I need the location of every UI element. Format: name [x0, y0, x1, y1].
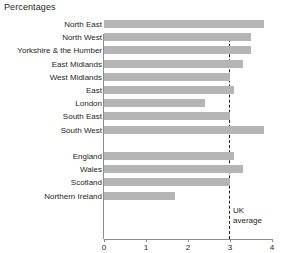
category-label: South West	[0, 125, 102, 136]
category-label: South East	[0, 111, 102, 122]
bar	[104, 152, 234, 160]
category-label: East Midlands	[0, 59, 102, 70]
x-tick-label: 2	[178, 243, 198, 253]
uk-average-label-line2: average	[233, 216, 262, 226]
x-tick	[188, 239, 189, 242]
bar	[104, 126, 264, 134]
x-tick-label: 1	[136, 243, 156, 253]
category-label: North East	[0, 19, 102, 30]
bar	[104, 46, 251, 54]
table-row: London	[0, 97, 280, 110]
bar	[104, 99, 205, 107]
table-row: East	[0, 84, 280, 97]
x-tick	[230, 239, 231, 242]
chart-title: Percentages	[4, 2, 56, 13]
group-separator-row	[0, 137, 280, 150]
category-label: Wales	[0, 164, 102, 175]
uk-average-label: UK average	[233, 206, 262, 226]
table-row: Wales	[0, 163, 280, 176]
table-row: West Midlands	[0, 71, 280, 84]
bar	[104, 112, 230, 120]
plot-area: UK average North EastNorth WestYorkshire…	[0, 16, 280, 223]
bar	[104, 60, 243, 68]
category-label: West Midlands	[0, 72, 102, 83]
uk-average-label-line1: UK	[233, 206, 262, 216]
bar	[104, 73, 230, 81]
table-row: Northern Ireland	[0, 190, 280, 203]
x-tick	[104, 239, 105, 242]
category-label: North West	[0, 32, 102, 43]
category-label: England	[0, 151, 102, 162]
x-tick-label: 3	[220, 243, 240, 253]
table-row: Scotland	[0, 176, 280, 189]
table-row: South West	[0, 124, 280, 137]
category-label: Yorkshire & the Humber	[0, 45, 102, 56]
x-tick-label: 0	[94, 243, 114, 253]
category-label: London	[0, 98, 102, 109]
category-label: Northern Ireland	[0, 191, 102, 202]
table-row: South East	[0, 110, 280, 123]
table-row: Yorkshire & the Humber	[0, 44, 280, 57]
table-row: North West	[0, 31, 280, 44]
bar	[104, 192, 175, 200]
x-tick-label: 4	[262, 243, 282, 253]
bar	[104, 165, 243, 173]
x-tick	[146, 239, 147, 242]
category-label: Scotland	[0, 177, 102, 188]
category-label: East	[0, 85, 102, 96]
bar	[104, 86, 234, 94]
x-tick	[272, 239, 273, 242]
table-row: North East	[0, 18, 280, 31]
bar	[104, 20, 264, 28]
bar	[104, 178, 230, 186]
table-row: East Midlands	[0, 58, 280, 71]
table-row: England	[0, 150, 280, 163]
bar	[104, 33, 251, 41]
